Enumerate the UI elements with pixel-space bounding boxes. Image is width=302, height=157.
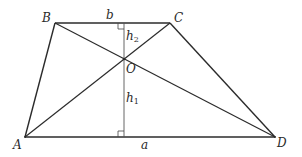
vertex-label-d: D [277,137,287,149]
vertex-label-a: A [13,139,22,151]
trapezoid-diagram: B C A D O b a h2 h1 [0,0,302,157]
base-label-a: a [141,139,148,151]
base-label-b: b [106,9,114,21]
right-angle-top-marker [118,23,124,29]
diagonal-bd [55,23,275,137]
point-a [24,136,26,138]
h1-subscript: 1 [134,97,139,106]
side-cd [170,23,275,137]
vertex-label-b: B [42,12,51,24]
point-d [274,136,276,138]
side-ab [25,23,55,137]
intersection-label-o: O [126,63,136,75]
vertex-label-c: C [174,12,183,24]
diagonal-ac [25,23,170,137]
h1-main: h [126,91,134,105]
height-label-h1: h1 [126,92,139,106]
right-angle-bottom-marker [118,131,124,137]
h2-subscript: 2 [134,35,139,44]
point-o [123,58,126,61]
height-label-h2: h2 [126,30,139,44]
h2-main: h [126,29,134,43]
